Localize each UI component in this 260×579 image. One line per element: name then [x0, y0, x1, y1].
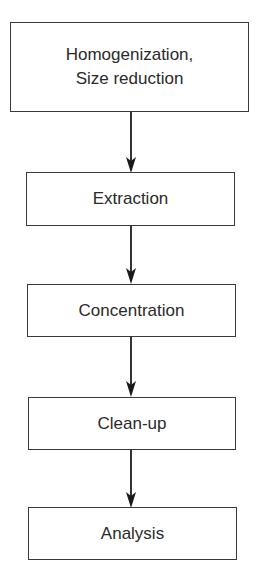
arrowhead-icon	[126, 268, 136, 284]
step-extraction: Extraction	[26, 172, 235, 226]
connector-line	[130, 336, 132, 386]
step-concentration: Concentration	[27, 284, 236, 337]
step-homogenization: Homogenization, Size reduction	[10, 22, 249, 112]
step-label: Concentration	[79, 299, 185, 323]
connector-line	[130, 449, 132, 497]
step-label-line2: Size reduction	[76, 67, 184, 91]
arrowhead-icon	[126, 157, 136, 173]
step-clean-up: Clean-up	[28, 397, 236, 450]
step-label: Analysis	[101, 522, 164, 546]
arrowhead-icon	[126, 381, 136, 397]
arrowhead-icon	[126, 492, 136, 508]
connector-line	[130, 225, 132, 273]
connector-line	[130, 111, 132, 161]
step-label: Extraction	[93, 187, 169, 211]
step-label: Clean-up	[98, 412, 167, 436]
step-label-line1: Homogenization,	[66, 43, 194, 67]
step-analysis: Analysis	[28, 507, 237, 560]
